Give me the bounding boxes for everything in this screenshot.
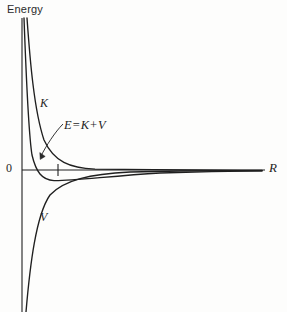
plot-canvas bbox=[0, 0, 287, 312]
equals-sign: = bbox=[72, 118, 81, 132]
y-axis-title: Energy bbox=[7, 4, 43, 15]
x-axis-label: R bbox=[269, 161, 277, 174]
energy-diagram-figure: Energy 0 R K V E=K+V bbox=[0, 0, 287, 312]
v-symbol: V bbox=[98, 118, 106, 132]
potential-energy-curve bbox=[26, 171, 262, 312]
kinetic-energy-curve-label: K bbox=[40, 97, 48, 109]
e-symbol: E bbox=[64, 118, 72, 132]
kinetic-energy-curve bbox=[27, 18, 262, 170]
k-symbol: K bbox=[81, 118, 89, 132]
origin-label: 0 bbox=[6, 162, 12, 174]
total-energy-curve-label: E=K+V bbox=[64, 119, 106, 132]
plus-sign: + bbox=[89, 118, 98, 132]
potential-energy-curve-label: V bbox=[40, 211, 47, 223]
total-energy-curve bbox=[24, 18, 262, 181]
